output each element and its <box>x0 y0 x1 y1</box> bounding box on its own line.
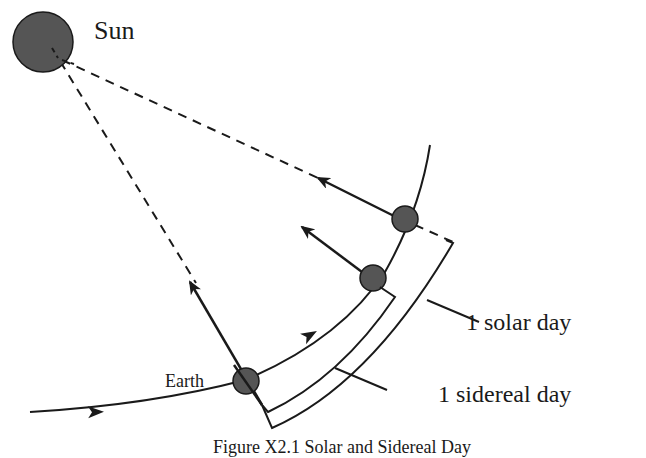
sidereal-day-leader-line <box>335 368 387 390</box>
earth-position-2 <box>360 265 386 291</box>
figure-caption: Figure X2.1 Solar and Sidereal Day <box>213 437 471 458</box>
sidereal-day-label: 1 sidereal day <box>438 381 571 408</box>
dashed-sun-line-earth1 <box>52 48 196 283</box>
earth3-pointer-arrow <box>318 178 402 220</box>
dashed-extension-line <box>415 225 453 242</box>
orbit-arrow-icon <box>88 406 104 419</box>
earth-label: Earth <box>165 371 204 392</box>
solar-day-label: 1 solar day <box>466 309 571 336</box>
earth-position-3 <box>392 206 418 232</box>
sun-body <box>13 12 73 72</box>
sun-label: Sun <box>94 16 134 46</box>
dashed-sun-line-earth3 <box>62 60 318 178</box>
